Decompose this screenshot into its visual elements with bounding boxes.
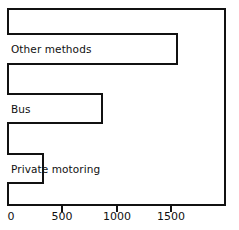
x-tick-label-0: 0: [8, 211, 15, 222]
bar-label-other-methods: Other methods: [11, 44, 91, 55]
bar-label-private-motoring: Private motoring: [11, 163, 100, 174]
x-tick-label-3: 1500: [157, 211, 185, 222]
x-tick-label-2: 1000: [103, 211, 131, 222]
bar-bus: Bus: [7, 93, 103, 124]
bar-other-methods: Other methods: [7, 33, 178, 65]
horizontal-bar-chart: Other methods Bus Private motoring 0 500…: [0, 0, 239, 230]
bar-private-motoring: Private motoring: [7, 153, 44, 184]
x-tick-label-1: 500: [52, 211, 73, 222]
bar-label-bus: Bus: [11, 103, 31, 114]
